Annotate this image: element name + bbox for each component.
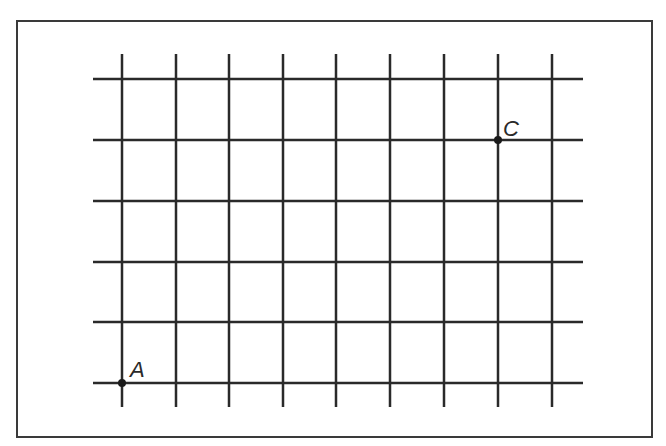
labeled-points: AC xyxy=(118,116,519,387)
point-c-marker xyxy=(494,136,502,144)
point-a-marker xyxy=(118,379,126,387)
grid-diagram: AC xyxy=(0,0,666,446)
point-c-label: C xyxy=(503,116,519,141)
point-a-label: A xyxy=(128,357,145,382)
vertical-grid-lines xyxy=(122,54,552,407)
diagram-frame xyxy=(17,21,652,437)
